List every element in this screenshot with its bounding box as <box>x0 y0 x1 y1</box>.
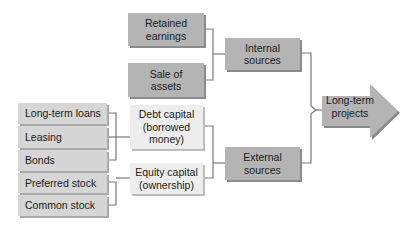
bonds-box: Bonds <box>18 150 107 171</box>
internal-sources-box: Internal sources <box>225 38 300 70</box>
long-term-projects-label: Long-term projects <box>322 94 378 119</box>
debt-capital-box: Debt capital (borrowed money) <box>130 105 203 149</box>
common-stock-box: Common stock <box>18 195 107 216</box>
leasing-box: Leasing <box>18 126 107 148</box>
preferred-stock-box: Preferred stock <box>18 173 107 193</box>
retained-earnings-box: Retained earnings <box>128 13 204 46</box>
sale-of-assets-box: Sale of assets <box>128 63 204 97</box>
long-term-loans-box: Long-term loans <box>18 103 107 124</box>
equity-capital-box: Equity capital (ownership) <box>130 163 203 194</box>
external-sources-box: External sources <box>225 147 300 180</box>
